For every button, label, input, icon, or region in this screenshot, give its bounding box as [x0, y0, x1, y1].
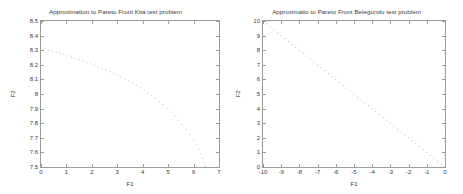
x-tick-mark — [427, 21, 428, 24]
x-tick-mark — [194, 164, 195, 167]
y-tick-mark — [41, 138, 44, 139]
x-tick-label: -5 — [351, 169, 356, 175]
y-tick-mark — [216, 167, 219, 168]
y-tick-mark — [263, 138, 266, 139]
y-tick-label: 8.4 — [30, 33, 38, 39]
plot-area — [41, 21, 219, 167]
y-tick-mark — [41, 79, 44, 80]
x-tick-label: 7 — [217, 169, 220, 175]
chart-panel-kita: Approximation to Pareto Front Kita test … — [0, 0, 231, 194]
x-axis-label: F1 — [40, 180, 220, 187]
data-series-points — [263, 21, 445, 167]
chart-title: Approximatio to Pareto Front Belegundu t… — [231, 8, 462, 15]
x-tick-mark — [41, 21, 42, 24]
x-tick-mark — [263, 164, 264, 167]
y-tick-label: 7.5 — [30, 164, 38, 170]
y-tick-label: 7.9 — [30, 106, 38, 112]
y-tick-mark — [442, 79, 445, 80]
x-tick-mark — [66, 21, 67, 24]
y-tick-mark — [41, 94, 44, 95]
x-tick-label: -6 — [333, 169, 338, 175]
y-axis-label: F2 — [9, 90, 16, 97]
y-tick-label: 8.1 — [30, 76, 38, 82]
x-tick-mark — [318, 21, 319, 24]
plot-frame: 012345678910-10-9-8-7-6-5-4-3-2-10 — [262, 20, 446, 168]
y-tick-mark — [263, 123, 266, 124]
y-tick-label: 4 — [257, 106, 260, 112]
y-tick-mark — [41, 152, 44, 153]
x-tick-mark — [194, 21, 195, 24]
y-tick-mark — [41, 50, 44, 51]
x-tick-label: -1 — [424, 169, 429, 175]
y-axis-label: F2 — [234, 90, 241, 97]
y-tick-mark — [442, 138, 445, 139]
x-tick-mark — [168, 164, 169, 167]
x-tick-mark — [390, 164, 391, 167]
x-tick-mark — [41, 164, 42, 167]
data-series-points — [41, 21, 219, 167]
y-tick-label: 7.6 — [30, 149, 38, 155]
x-tick-label: 3 — [116, 169, 119, 175]
x-tick-mark — [219, 164, 220, 167]
y-tick-label: 8.3 — [30, 47, 38, 53]
x-tick-mark — [281, 21, 282, 24]
x-tick-mark — [143, 164, 144, 167]
y-tick-mark — [442, 123, 445, 124]
x-tick-label: 5 — [166, 169, 169, 175]
y-tick-mark — [216, 65, 219, 66]
y-tick-mark — [41, 65, 44, 66]
plot-area — [263, 21, 445, 167]
y-tick-mark — [442, 152, 445, 153]
x-tick-label: 1 — [65, 169, 68, 175]
x-tick-mark — [318, 164, 319, 167]
x-tick-mark — [336, 164, 337, 167]
x-tick-label: 0 — [443, 169, 446, 175]
y-tick-mark — [263, 109, 266, 110]
y-tick-mark — [263, 167, 266, 168]
x-tick-mark — [219, 21, 220, 24]
y-tick-label: 10 — [253, 18, 260, 24]
x-tick-mark — [427, 164, 428, 167]
y-tick-label: 7.7 — [30, 135, 38, 141]
x-tick-mark — [445, 164, 446, 167]
y-tick-mark — [216, 79, 219, 80]
y-tick-mark — [41, 109, 44, 110]
x-tick-mark — [117, 164, 118, 167]
y-tick-mark — [442, 36, 445, 37]
y-tick-label: 5 — [257, 91, 260, 97]
y-tick-label: 7 — [257, 62, 260, 68]
y-tick-mark — [263, 79, 266, 80]
x-tick-label: 4 — [141, 169, 144, 175]
x-tick-label: -7 — [315, 169, 320, 175]
y-tick-label: 3 — [257, 120, 260, 126]
x-tick-label: 6 — [192, 169, 195, 175]
y-tick-mark — [442, 167, 445, 168]
x-tick-mark — [299, 164, 300, 167]
y-tick-mark — [216, 50, 219, 51]
y-tick-mark — [216, 36, 219, 37]
x-axis-label: F1 — [262, 180, 446, 187]
x-tick-label: -9 — [279, 169, 284, 175]
y-tick-mark — [442, 109, 445, 110]
x-tick-label: -2 — [406, 169, 411, 175]
x-tick-mark — [409, 164, 410, 167]
y-tick-mark — [41, 36, 44, 37]
x-tick-mark — [143, 21, 144, 24]
x-tick-label: -4 — [370, 169, 375, 175]
y-tick-label: 9 — [257, 33, 260, 39]
y-tick-mark — [442, 50, 445, 51]
y-tick-label: 6 — [257, 76, 260, 82]
y-tick-label: 8 — [35, 91, 38, 97]
x-tick-mark — [390, 21, 391, 24]
y-tick-label: 8.2 — [30, 62, 38, 68]
x-tick-mark — [372, 21, 373, 24]
y-tick-mark — [442, 94, 445, 95]
x-tick-label: 0 — [39, 169, 42, 175]
x-tick-mark — [354, 21, 355, 24]
x-tick-label: -10 — [259, 169, 268, 175]
x-tick-mark — [299, 21, 300, 24]
y-tick-mark — [216, 152, 219, 153]
x-tick-mark — [263, 21, 264, 24]
y-tick-mark — [442, 65, 445, 66]
y-tick-mark — [263, 36, 266, 37]
